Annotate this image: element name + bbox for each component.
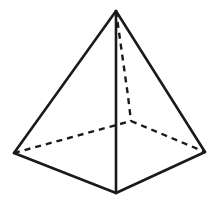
pyramid-figure <box>0 0 219 208</box>
figure-background <box>0 0 219 208</box>
pyramid-diagram-svg <box>0 0 219 208</box>
